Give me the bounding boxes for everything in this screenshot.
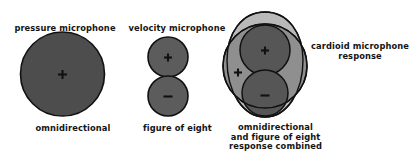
- label-combined-response: omnidirectional and figure of eight resp…: [208, 123, 343, 152]
- combined-figure-eight-lower-lobe: [242, 70, 288, 116]
- label-velocity-microphone: velocity microphone: [117, 24, 237, 34]
- velocity-microphone-diagram: [148, 37, 188, 116]
- label-omnidirectional: omnidirectional: [8, 124, 138, 134]
- label-pressure-microphone: pressure microphone: [0, 24, 130, 34]
- label-cardioid-microphone-response: cardioid microphone response: [305, 42, 415, 61]
- microphone-polar-response-figure: pressure microphone velocity microphone …: [0, 0, 415, 157]
